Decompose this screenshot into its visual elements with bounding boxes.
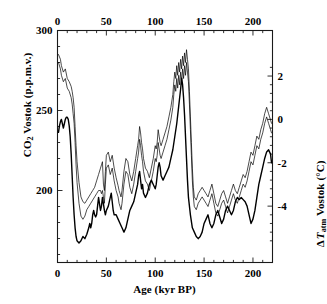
y-axis-right-tick-label: -4 — [278, 200, 288, 212]
y-axis-left-title-text: CO2 Vostok (p.p.m.v.) — [21, 53, 33, 158]
x-axis-top-tick-label: 150 — [196, 15, 213, 27]
y-axis-left-tick-label: 250 — [36, 104, 53, 116]
x-axis-top-tick-label: 50 — [101, 15, 113, 27]
x-axis-tick-label: 200 — [245, 267, 262, 279]
data-series-line-0 — [58, 50, 271, 207]
y-axis-left-title: CO2 Vostok (p.p.m.v.) — [21, 25, 35, 185]
x-axis-top-tick-label: 0 — [55, 15, 61, 27]
x-axis-tick-label: 150 — [196, 267, 213, 279]
y-axis-left-tick-label: 300 — [36, 24, 53, 36]
vostok-co2-temperature-figure: 00505010010015015020020020025030020-2-4 … — [0, 0, 327, 304]
x-axis-title: Age (kyr BP) — [57, 283, 272, 295]
y-axis-right-tick-label: 2 — [278, 70, 284, 82]
x-axis-tick-label: 0 — [55, 267, 61, 279]
x-axis-tick-label: 100 — [147, 267, 164, 279]
x-axis-tick-label: 50 — [101, 267, 113, 279]
y-axis-right-title-text: Δ Tatm Vostok (°C) — [314, 161, 326, 248]
y-axis-right-tick-label: 0 — [278, 113, 284, 125]
y-axis-left-tick-label: 200 — [36, 184, 53, 196]
data-series-line-1 — [58, 63, 271, 220]
data-series-line-2 — [58, 78, 271, 243]
chart-plot-area: 00505010010015015020020020025030020-2-4 — [0, 0, 327, 304]
y-axis-right-title: Δ Tatm Vostok (°C) — [314, 124, 327, 284]
x-axis-top-tick-label: 100 — [147, 15, 164, 27]
y-axis-right-tick-label: -2 — [278, 157, 288, 169]
x-axis-top-tick-label: 200 — [245, 15, 262, 27]
